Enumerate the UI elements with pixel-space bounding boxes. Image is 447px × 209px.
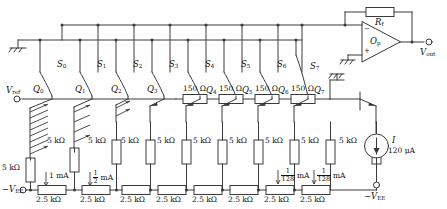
switch-label-S0: S0 — [57, 60, 66, 70]
emitter-resistor-label-2: 5 kΩ — [88, 137, 106, 145]
transistor-Q2 — [116, 96, 128, 122]
feedback-resistor-label: Rf — [375, 18, 383, 28]
vee-bottom-label: −VEE — [364, 192, 385, 202]
current-source — [365, 122, 389, 188]
ladder-resistor-label-4: 2.5 kΩ — [192, 196, 217, 204]
ground-symbol-right-base — [329, 74, 344, 80]
current-source-symbol: I — [392, 136, 395, 145]
switch-label-S7: S7 — [310, 62, 319, 72]
opamp-label: Op — [370, 37, 381, 47]
switch-label-S2: S2 — [133, 60, 142, 70]
current-source-value: 120 μA — [388, 147, 415, 155]
emitter-resistor-label-0: 5 kΩ — [2, 164, 20, 172]
transistor-label-Q6: Q6 — [278, 86, 289, 96]
base-resistor-label-3: 150 Ω — [291, 85, 314, 93]
transistor-Q0 — [30, 96, 52, 160]
Q2-multi-emitter-array — [116, 101, 130, 116]
current-label-1: 12 mA — [93, 170, 113, 184]
transistor-label-Q2: Q2 — [111, 85, 122, 95]
Q0-multi-emitter-array — [30, 104, 48, 154]
switch-label-S1: S1 — [97, 60, 106, 70]
switch-label-S4: S4 — [205, 60, 214, 70]
emitter-resistor-label-5: 5 kΩ — [193, 137, 211, 145]
switch-label-S3: S3 — [169, 60, 178, 70]
emitter-resistor-label-7: 5 kΩ — [265, 137, 283, 145]
ladder-resistor-label-2: 2.5 kΩ — [120, 196, 145, 204]
vout-label: Vout — [420, 48, 435, 58]
ladder-resistor-label-7: 2.5 kΩ — [300, 196, 325, 204]
current-arrows — [44, 170, 316, 186]
transistor-label-Q4: Q4 — [206, 86, 217, 96]
base-resistor-label-1: 150 Ω — [219, 85, 242, 93]
transistor-Q3 — [150, 96, 164, 122]
transistor-label-Q1: Q1 — [75, 85, 86, 95]
emitter-resistor-label-3: 5 kΩ — [121, 137, 139, 145]
opamp-noninverting-ground — [340, 55, 362, 64]
ladder-resistor-label-6: 2.5 kΩ — [264, 196, 289, 204]
emitter-resistor-label-8: 5 kΩ — [301, 137, 319, 145]
base-resistor-label-2: 150 Ω — [255, 85, 278, 93]
emitter-resistor-label-9: 5 kΩ — [339, 137, 357, 145]
transistor-label-Q5: Q5 — [242, 86, 253, 96]
base-resistor-label-0: 150 Ω — [183, 85, 206, 93]
opamp-inverting-sign: − — [364, 26, 370, 33]
current-label-2: 1128 mA — [281, 168, 310, 182]
rail-junction-dots — [39, 24, 347, 42]
ground-symbol-left — [9, 40, 26, 52]
opamp-body — [345, 22, 432, 62]
transistor-label-Q0: Q0 — [33, 85, 44, 95]
transistor-reference — [330, 92, 376, 122]
current-label-3: 1128 mA — [317, 168, 346, 182]
ladder-resistor-label-5: 2.5 kΩ — [228, 196, 253, 204]
opamp-noninverting-sign: + — [364, 48, 370, 55]
current-label-0: 1 mA — [49, 172, 69, 180]
circuit-diagram: Vref Vout −VEE −VEE Op − + Rf S0 S1 S2 S… — [0, 0, 447, 209]
vee-left-label: −VEE — [2, 185, 23, 195]
emitter-resistor-label-4: 5 kΩ — [157, 137, 175, 145]
switch-label-S5: S5 — [241, 60, 250, 70]
ladder-resistor-label-0: 2.5 kΩ — [36, 196, 61, 204]
emitter-resistor-label-1: 5 kΩ — [47, 137, 65, 145]
vref-base-line — [14, 96, 176, 102]
vref-label: Vref — [6, 86, 20, 96]
ladder-resistor-label-3: 2.5 kΩ — [156, 196, 181, 204]
switch-label-S6: S6 — [277, 60, 286, 70]
emitter-resistor-label-6: 5 kΩ — [229, 137, 247, 145]
transistor-label-Q7: Q7 — [314, 86, 325, 96]
transistor-label-Q3: Q3 — [147, 85, 158, 95]
ladder-resistor-label-1: 2.5 kΩ — [80, 196, 105, 204]
